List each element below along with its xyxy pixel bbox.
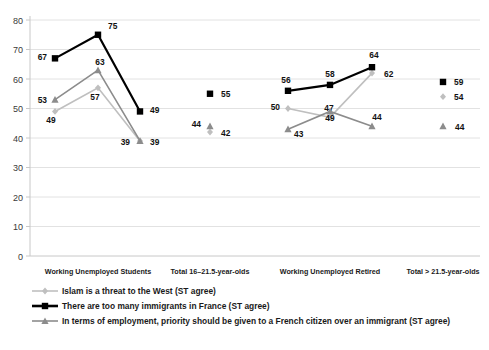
data-point-diamond-marker <box>207 129 213 136</box>
data-point-label: 49 <box>46 115 56 125</box>
data-point-label: 64 <box>369 50 379 60</box>
data-point-label: 58 <box>325 69 335 79</box>
data-point-label: 44 <box>372 112 382 122</box>
data-point-label: 53 <box>38 95 48 105</box>
data-point-diamond-marker <box>52 108 58 115</box>
x-axis-group-label: Working Unemployed Students <box>45 267 152 276</box>
legend-label[interactable]: There are too many immigrants in France … <box>62 301 270 311</box>
series-triangle: 5363394443494444 <box>38 57 465 147</box>
data-point-label: 62 <box>384 69 394 79</box>
data-point-label: 44 <box>192 119 202 129</box>
data-point-label: 39 <box>121 137 131 147</box>
data-point-square-marker <box>95 32 101 38</box>
data-point-square-marker <box>137 108 143 114</box>
data-point-diamond-marker <box>440 93 446 100</box>
y-axis-tick-label: 20 <box>13 193 23 203</box>
data-point-diamond-marker <box>285 105 291 112</box>
data-point-label: 44 <box>455 122 465 132</box>
data-point-square-marker <box>52 55 58 61</box>
data-point-square-marker <box>285 88 291 94</box>
data-point-label: 49 <box>150 105 160 115</box>
data-point-square-marker <box>440 79 446 85</box>
x-axis-group-label: Total > 21.5-year-olds <box>406 267 479 276</box>
data-point-label: 39 <box>150 137 160 147</box>
y-axis-tick-label: 50 <box>13 104 23 114</box>
y-axis-tick-label: 60 <box>13 75 23 85</box>
data-point-triangle-marker <box>206 123 213 130</box>
y-axis-tick-label: 0 <box>18 252 23 262</box>
data-point-label: 75 <box>108 21 118 31</box>
data-point-label: 43 <box>294 129 304 139</box>
data-point-triangle-marker <box>94 67 101 74</box>
line-chart: 01020304050607080Working Unemployed Stud… <box>0 0 489 350</box>
x-axis-labels: Working Unemployed StudentsTotal 16–21.5… <box>45 267 480 276</box>
data-point-square-marker <box>327 82 333 88</box>
chart-container: 01020304050607080Working Unemployed Stud… <box>0 0 489 350</box>
data-point-diamond-marker <box>42 288 48 295</box>
legend-label[interactable]: In terms of employment, priority should … <box>62 316 450 326</box>
series-line <box>55 70 140 141</box>
y-axis-tick-label: 10 <box>13 222 23 232</box>
series-square: 6775495556586459 <box>38 21 464 116</box>
data-point-label: 59 <box>454 77 464 87</box>
y-axis-tick-label: 40 <box>13 134 23 144</box>
data-point-label: 50 <box>271 102 281 112</box>
legend-label[interactable]: Islam is a threat to the West (ST agree) <box>62 286 216 296</box>
data-point-label: 67 <box>38 52 48 62</box>
legend: Islam is a threat to the West (ST agree)… <box>32 286 450 326</box>
data-point-label: 56 <box>281 75 291 85</box>
x-axis-group-label: Working Unemployed Retired <box>280 267 381 276</box>
data-point-label: 57 <box>90 92 100 102</box>
y-axis-tick-label: 30 <box>13 163 23 173</box>
data-point-square-marker <box>207 91 213 97</box>
data-point-label: 54 <box>454 92 464 102</box>
data-point-square-marker <box>42 303 48 309</box>
data-point-label: 63 <box>95 57 105 67</box>
data-point-triangle-marker <box>439 123 446 130</box>
y-axis-tick-label: 80 <box>13 16 23 26</box>
data-point-label: 49 <box>325 113 335 123</box>
y-axis-tick-label: 70 <box>13 45 23 55</box>
data-point-label: 42 <box>221 128 231 138</box>
x-axis-group-label: Total 16–21.5-year-olds <box>171 267 250 276</box>
data-point-label: 55 <box>221 89 231 99</box>
y-gridlines: 01020304050607080 <box>13 16 480 262</box>
data-point-square-marker <box>369 64 375 70</box>
